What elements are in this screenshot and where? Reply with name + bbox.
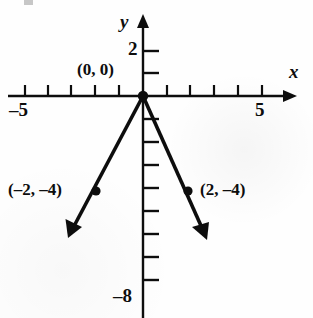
point-marker-right — [183, 186, 192, 195]
coordinate-plane — [0, 0, 313, 318]
x-axis — [8, 90, 297, 102]
y-axis-ticks — [143, 51, 159, 280]
left-point-label: (–2, –4) — [8, 181, 62, 198]
y-tick-label-minus8: –8 — [113, 286, 132, 305]
left-ray — [73, 96, 143, 228]
y-tick-label-2: 2 — [128, 39, 138, 58]
right-ray-arrowhead — [192, 222, 209, 240]
left-ray-arrowhead — [66, 219, 83, 238]
x-tick-label-minus5: –5 — [9, 100, 28, 119]
point-marker-origin — [138, 91, 148, 101]
function-curve — [66, 96, 210, 240]
graph-figure: x y 2 –8 –5 5 (0, 0) (–2, –4) (2, –4) — [0, 0, 313, 318]
origin-point-label: (0, 0) — [77, 61, 114, 78]
x-axis-arrowhead — [283, 90, 297, 102]
right-point-label: (2, –4) — [200, 181, 245, 198]
point-marker-left — [91, 186, 100, 195]
y-axis-arrowhead — [137, 14, 149, 28]
y-axis-label: y — [120, 12, 128, 31]
x-tick-label-5: 5 — [255, 100, 265, 119]
x-axis-label: x — [289, 62, 299, 81]
right-ray — [143, 96, 202, 228]
